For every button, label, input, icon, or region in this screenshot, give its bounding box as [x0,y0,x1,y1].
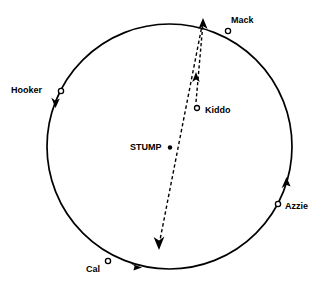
node-label-kiddo: Kiddo [205,105,231,115]
hooker-rim-arrowhead-icon [51,98,60,109]
node-label-azzie: Azzie [285,201,308,211]
rim-to-lower-left-dashed-path [160,23,203,240]
node-label-hooker: Hooker [11,85,42,95]
diagram-canvas: Mack Hooker Kiddo STUMP Azzie Cal [0,0,326,289]
lower-left-arrowhead-icon [154,237,165,251]
node-marker-stump[interactable] [168,145,172,149]
node-marker-azzie[interactable] [275,201,280,206]
node-label-stump: STUMP [130,142,162,152]
diagram-vector-layer [0,0,326,289]
node-label-mack: Mack [231,15,254,25]
node-marker-kiddo[interactable] [195,106,200,111]
node-label-cal: Cal [86,264,100,274]
node-marker-hooker[interactable] [58,88,63,93]
node-marker-mack[interactable] [225,28,230,33]
node-marker-cal[interactable] [105,258,110,263]
